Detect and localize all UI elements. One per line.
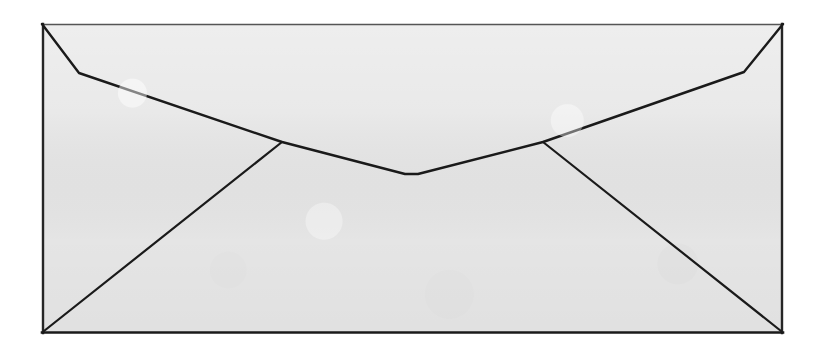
envelope-body-shading bbox=[42, 24, 783, 333]
image-canvas bbox=[0, 0, 828, 351]
envelope-line-drawing bbox=[0, 0, 828, 351]
